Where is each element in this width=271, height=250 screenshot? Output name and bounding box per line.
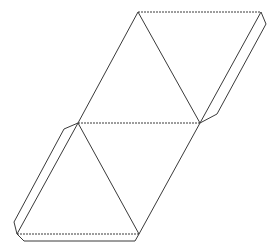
bottom-glue-tab [17,234,139,241]
tetrahedron-net-diagram [0,0,271,250]
net-svg [0,0,271,250]
